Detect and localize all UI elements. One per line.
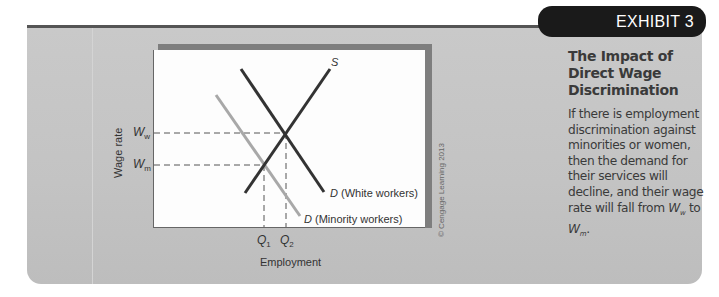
x-axis-label: Employment [260,256,321,268]
q1-tick: Q1 [257,233,271,249]
supply-label: S [331,56,338,68]
copyright-note: © Cengage Learning 2013 [437,143,446,237]
white-demand-label: D (White workers) [330,187,418,199]
ww-tick: Ww [133,125,150,141]
chart-plot [0,0,719,297]
supply-curve [245,69,330,193]
wm-tick: Wm [133,157,151,173]
minority-demand-label: D (Minority workers) [304,213,402,225]
q2-tick: Q2 [280,233,294,249]
minority-demand-curve [216,95,300,216]
white-demand-curve [241,69,324,192]
y-axis-label: Wage rate [112,128,124,178]
